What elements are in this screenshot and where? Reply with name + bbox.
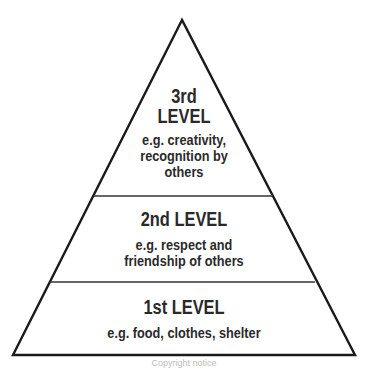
level-3-desc-line2: recognition by (33, 147, 335, 164)
caption: Copyright notice (0, 358, 368, 368)
level-2-desc-line2: friendship of others (33, 252, 335, 269)
level-2-title: 2nd LEVEL (33, 209, 335, 230)
level-3-title-word: LEVEL (33, 106, 335, 127)
level-3-desc-line3: others (33, 163, 335, 180)
level-3-title: 3rd (33, 86, 335, 107)
level-1-desc: e.g. food, clothes, shelter (33, 324, 335, 341)
level-1-title: 1st LEVEL (33, 297, 335, 318)
level-2-desc-line1: e.g. respect and (33, 236, 335, 253)
level-3-desc-line1: e.g. creativity, (33, 131, 335, 148)
